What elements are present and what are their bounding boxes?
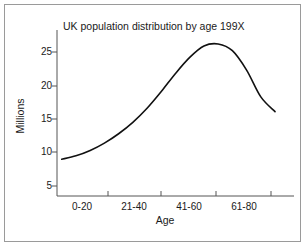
data-series-line — [62, 44, 275, 160]
chart-figure: UK population distribution by age 199X M… — [0, 0, 307, 248]
plot-area — [0, 0, 307, 248]
